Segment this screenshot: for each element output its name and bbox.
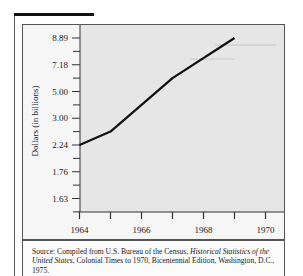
svg-text:3.00: 3.00: [52, 113, 68, 123]
svg-text:5.00: 5.00: [52, 87, 68, 97]
source-prefix: Source: Compiled from U.S. Bureau of the…: [32, 247, 190, 256]
svg-text:1.63: 1.63: [52, 194, 68, 204]
svg-text:1964: 1964: [71, 225, 90, 235]
y-axis-label: Dollars (in billions): [30, 86, 40, 157]
svg-text:1970: 1970: [257, 225, 276, 235]
line-chart: 8.897.185.003.002.241.761.63 19641966196…: [0, 0, 303, 276]
svg-text:8.89: 8.89: [52, 33, 68, 43]
y-ticks: [72, 38, 80, 212]
x-tick-labels: 1964196619681970: [71, 225, 276, 235]
svg-text:2.24: 2.24: [52, 140, 68, 150]
plot-area: [80, 25, 284, 212]
y-tick-labels: 8.897.185.003.002.241.761.63: [52, 33, 68, 204]
x-ticks: [80, 212, 266, 219]
svg-text:1968: 1968: [195, 225, 214, 235]
svg-text:1.76: 1.76: [52, 167, 68, 177]
svg-text:7.18: 7.18: [52, 60, 68, 70]
svg-text:1966: 1966: [133, 225, 152, 235]
source-note-box: Source: Compiled from U.S. Bureau of the…: [22, 240, 285, 276]
source-note: Source: Compiled from U.S. Bureau of the…: [32, 247, 282, 275]
